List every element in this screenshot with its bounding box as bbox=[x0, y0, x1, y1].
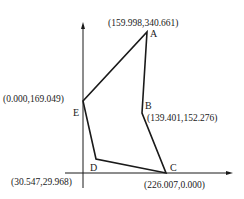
point-b-label: B bbox=[145, 101, 152, 111]
diagram-canvas: (159.998,340.661) A B (139.401,152.276) … bbox=[0, 0, 244, 199]
point-c-label: C bbox=[170, 163, 177, 173]
y-axis-arrow-icon bbox=[81, 22, 85, 29]
point-e-label: E bbox=[73, 108, 79, 118]
point-d-label: D bbox=[90, 163, 97, 173]
polygon-ABCDE bbox=[83, 32, 166, 173]
point-b-coord: (139.401,152.276) bbox=[147, 114, 217, 124]
point-a-coord: (159.998,340.661) bbox=[108, 19, 178, 29]
point-e-coord: (0.000,169.049) bbox=[3, 95, 64, 105]
point-c-coord: (226.007,0.000) bbox=[144, 181, 205, 191]
x-axis-arrow-icon bbox=[226, 171, 233, 175]
point-a-label: A bbox=[150, 29, 157, 39]
point-d-coord: (30.547,29.968) bbox=[11, 178, 72, 188]
